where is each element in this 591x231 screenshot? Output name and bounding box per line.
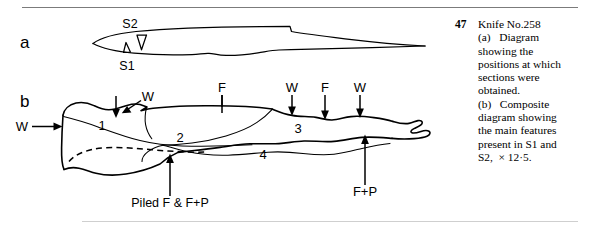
- caption-line: (b) Composite: [478, 98, 585, 111]
- caption-line: S2, × 12·5.: [478, 151, 585, 164]
- caption-text-block: Knife No.258 (a) Diagram showing the pos…: [478, 18, 585, 164]
- caption-line: positions at which: [478, 58, 585, 71]
- caption-line: the main features: [478, 124, 585, 137]
- caption-line: Knife No.258: [478, 18, 585, 31]
- caption-line: showing the: [478, 45, 585, 58]
- label-s1: S1: [119, 59, 134, 73]
- panel-a-label: a: [20, 33, 30, 52]
- figure-number: 47: [455, 18, 467, 31]
- caption-line: sections were: [478, 71, 585, 84]
- zone-number-2: 2: [176, 130, 183, 145]
- label-w-mid: W: [286, 80, 299, 95]
- panel-a-knife-outline: [93, 26, 425, 55]
- label-w-right: W: [354, 80, 367, 95]
- zone-number-3: 3: [294, 121, 301, 136]
- label-w-left: W: [16, 119, 29, 134]
- label-piled: Piled F & F+P: [131, 196, 208, 210]
- caption-line: (a) Diagram: [478, 31, 585, 44]
- caption-line: obtained.: [478, 84, 585, 97]
- label-w-upper: W: [142, 89, 155, 104]
- figure-page: a b S2 S1 W W F W F W F+P Piled F & F+P …: [0, 0, 591, 231]
- caption-line: diagram showing: [478, 111, 585, 124]
- panel-b-label: b: [20, 92, 29, 111]
- zone-number-4: 4: [259, 147, 266, 162]
- label-s2: S2: [122, 17, 137, 31]
- label-f-plus-p: F+P: [353, 184, 377, 199]
- label-f-mid: F: [218, 80, 226, 95]
- section-marker-s1: [124, 43, 131, 53]
- label-f-right: F: [321, 80, 329, 95]
- knife-section-diagram: a b S2 S1 W W F W F W F+P Piled F & F+P …: [0, 0, 440, 231]
- panel-b-internal-lines: [64, 107, 391, 161]
- figure-illustration: a b S2 S1 W W F W F W F+P Piled F & F+P …: [0, 0, 440, 231]
- section-marker-s2: [137, 35, 147, 50]
- panel-b-dashed-boundary: [69, 148, 208, 162]
- zone-number-1: 1: [98, 118, 105, 133]
- figure-caption: 47 Knife No.258 (a) Diagram showing the …: [455, 18, 585, 164]
- panel-b-annotation-arrows: [32, 95, 369, 196]
- caption-line: present in S1 and: [478, 138, 585, 151]
